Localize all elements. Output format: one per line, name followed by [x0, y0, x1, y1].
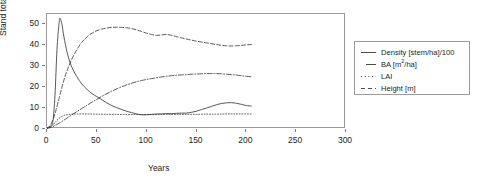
- series-canvas: [47, 14, 346, 129]
- y-tick-label: 10: [19, 103, 39, 112]
- legend-label-ba: BA [m2/ha]: [381, 61, 417, 69]
- legend-item-density[interactable]: Density [stem/ha]/100: [360, 47, 454, 58]
- y-tick-label: 40: [19, 40, 39, 49]
- x-tick-label: 100: [131, 136, 161, 145]
- y-tick-mark: [42, 44, 45, 45]
- legend-swatch-lai: [360, 72, 377, 81]
- y-tick-label: 0: [19, 124, 39, 133]
- y-axis-title: Stand totals: [0, 0, 8, 36]
- legend: Density [stem/ha]/100BA [m2/ha]LAIHeight…: [354, 41, 470, 95]
- legend-label-height: Height [m]: [381, 85, 416, 93]
- y-tick-label: 30: [19, 61, 39, 70]
- series-line-density: [47, 18, 251, 128]
- legend-item-lai[interactable]: LAI: [360, 71, 392, 82]
- plot-area: [46, 13, 345, 128]
- y-tick-mark: [42, 128, 45, 129]
- y-tick-mark: [42, 65, 45, 66]
- legend-swatch-density: [360, 48, 377, 57]
- legend-swatch-ba: [360, 60, 377, 69]
- series-line-lai: [47, 114, 251, 129]
- y-tick-label: 20: [19, 82, 39, 91]
- y-tick-mark: [42, 86, 45, 87]
- x-tick-label: 200: [230, 136, 260, 145]
- series-line-ba: [47, 74, 251, 129]
- x-tick-mark: [295, 129, 296, 132]
- x-tick-label: 150: [181, 136, 211, 145]
- y-tick-mark: [42, 107, 45, 108]
- legend-item-height[interactable]: Height [m]: [360, 83, 416, 94]
- x-tick-label: 250: [280, 136, 310, 145]
- x-tick-mark: [146, 129, 147, 132]
- chart-figure: Stand totals 01020304050 050100150200250…: [0, 0, 479, 180]
- x-tick-mark: [345, 129, 346, 132]
- x-tick-label: 300: [330, 136, 360, 145]
- legend-label-density: Density [stem/ha]/100: [381, 49, 454, 57]
- x-tick-mark: [196, 129, 197, 132]
- x-tick-label: 50: [81, 136, 111, 145]
- x-tick-label: 0: [31, 136, 61, 145]
- legend-item-ba[interactable]: BA [m2/ha]: [360, 59, 417, 70]
- x-tick-mark: [96, 129, 97, 132]
- y-tick-label: 50: [19, 19, 39, 28]
- y-tick-mark: [42, 23, 45, 24]
- legend-swatch-height: [360, 84, 377, 93]
- x-tick-mark: [245, 129, 246, 132]
- x-axis-title: Years: [148, 163, 169, 173]
- x-tick-mark: [46, 129, 47, 132]
- legend-label-lai: LAI: [381, 73, 392, 81]
